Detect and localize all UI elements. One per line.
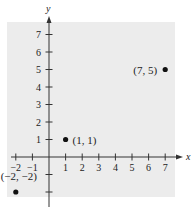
y-tick-label: 2 (36, 117, 41, 128)
y-tick-label: 1 (36, 134, 41, 145)
x-tick-label: 7 (163, 162, 168, 173)
point-label: (7, 5) (133, 64, 157, 77)
y-tick-label: 6 (36, 47, 41, 58)
x-tick-label: 3 (96, 162, 101, 173)
point-label: (1, 1) (73, 134, 97, 147)
y-axis-arrow-icon (47, 16, 52, 23)
x-tick-label: 5 (130, 162, 135, 173)
data-point (163, 67, 168, 72)
y-tick-label: 3 (36, 99, 41, 110)
point-label: (−2, −2) (1, 170, 38, 183)
coordinate-plot: xy −2−112345671234567 (7, 5)(1, 1)(−2, −… (0, 0, 192, 212)
y-tick-label: 4 (36, 82, 41, 93)
x-tick-label: 1 (63, 162, 68, 173)
data-point (13, 189, 18, 194)
y-axis-label: y (45, 3, 51, 14)
x-tick-label: 2 (80, 162, 85, 173)
x-tick-label: 4 (113, 162, 118, 173)
x-axis-arrow-icon (176, 155, 183, 160)
x-axis-label: x (185, 151, 191, 162)
y-tick-label: 7 (36, 29, 41, 40)
y-tick-label: 5 (36, 64, 41, 75)
data-point (63, 137, 68, 142)
x-tick-label: 6 (146, 162, 151, 173)
